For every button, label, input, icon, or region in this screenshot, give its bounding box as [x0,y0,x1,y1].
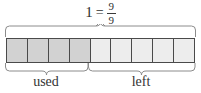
bar-cell [28,39,49,62]
bar-cell [91,39,112,62]
bar-cell [111,39,132,62]
equation-fraction: 9 9 [107,1,116,26]
label-left: left [87,72,195,92]
label-used: used [4,72,88,92]
fraction-bar-figure: 1 = 9 9 used left [0,0,201,93]
label-left-text: left [132,75,151,89]
equation-whole-number: 1 [85,5,93,21]
bar-cell [132,39,153,62]
equation-label: 1 = 9 9 [0,1,201,25]
bar-cell [153,39,174,62]
bar-cell [174,39,194,62]
brace-top-whole [4,24,197,38]
equation-equals-sign: = [96,6,104,21]
bar-cell [70,39,91,62]
bar-cell [7,39,28,62]
label-used-text: used [33,75,59,89]
fraction-bar [6,38,195,63]
fraction-numerator: 9 [107,1,115,13]
bar-cell [49,39,70,62]
